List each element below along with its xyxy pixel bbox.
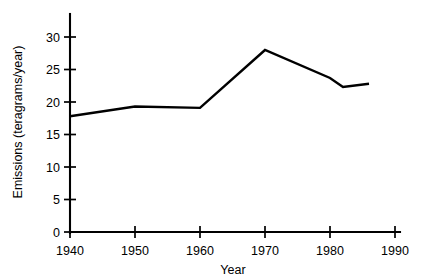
emissions-line-chart: 0 5 10 15 20 25 30 1940 1950 1960 1970 1… [0, 0, 425, 280]
x-tick-label-1960: 1960 [186, 244, 214, 258]
y-tick-label-30: 30 [46, 31, 60, 45]
chart-canvas: 0 5 10 15 20 25 30 1940 1950 1960 1970 1… [0, 0, 425, 280]
y-tick-label-10: 10 [46, 161, 60, 175]
x-axis-title: Year [220, 263, 245, 277]
x-tick-label-1990: 1990 [381, 244, 409, 258]
y-tick-label-0: 0 [53, 226, 60, 240]
x-tick-label-1940: 1940 [56, 244, 84, 258]
x-axis-tick-labels: 1940 1950 1960 1970 1980 1990 [56, 244, 409, 258]
y-axis-title: Emissions (teragrams/year) [11, 46, 25, 199]
x-tick-label-1970: 1970 [251, 244, 279, 258]
y-axis-tick-labels: 0 5 10 15 20 25 30 [46, 31, 60, 240]
y-tick-label-15: 15 [46, 128, 60, 142]
y-tick-label-25: 25 [46, 63, 60, 77]
x-tick-label-1950: 1950 [121, 244, 149, 258]
emissions-series-line [70, 50, 369, 116]
x-tick-label-1980: 1980 [316, 244, 344, 258]
y-tick-label-5: 5 [53, 193, 60, 207]
y-tick-label-20: 20 [46, 96, 60, 110]
